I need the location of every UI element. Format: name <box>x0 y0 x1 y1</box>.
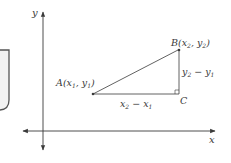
diagram-canvas: y x A(x1, y1) B(x2, y2) C y2 − y1 x2 − x… <box>0 0 231 163</box>
coordinate-plane: y x A(x1, y1) B(x2, y2) C y2 − y1 x2 − x… <box>0 0 231 163</box>
point-c-label: C <box>180 95 188 106</box>
right-angle-marker <box>175 90 179 94</box>
y-axis-label: y <box>31 7 38 18</box>
point-b-label: B(x2, y2) <box>170 37 210 49</box>
horizontal-difference-label: x2 − x1 <box>120 98 152 110</box>
side-panel-shape <box>0 50 9 110</box>
point-a <box>92 93 95 96</box>
vertical-difference-label: y2 − y1 <box>181 66 214 78</box>
point-a-label: A(x1, y1) <box>55 77 95 89</box>
point-b <box>178 49 181 52</box>
hypotenuse-ab <box>93 50 178 94</box>
x-axis-label: x <box>209 134 215 145</box>
